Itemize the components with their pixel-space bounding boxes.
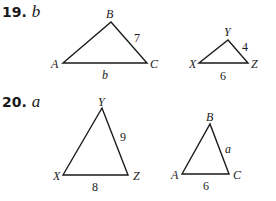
- triangle-abc-20: B A C a 6: [170, 110, 242, 193]
- vertex-label-x: X: [188, 57, 197, 71]
- vertex-label-c: C: [233, 168, 242, 182]
- vertex-label-x: X: [52, 169, 61, 183]
- vertex-label-a: A: [50, 57, 59, 71]
- vertex-label-y: Y: [224, 25, 232, 39]
- side-label-yz: 9: [120, 130, 126, 144]
- vertex-label-y: Y: [98, 95, 106, 109]
- triangle-xyz-19: Y X Z 4 6: [188, 25, 258, 83]
- side-label-xz: 8: [92, 180, 98, 194]
- vertex-label-z: Z: [251, 57, 258, 71]
- side-label-bc: a: [225, 142, 231, 156]
- side-label-xz: 6: [220, 69, 226, 83]
- triangle-xyz-20: Y X Z 9 8: [52, 95, 140, 194]
- triangle-shape: [182, 124, 229, 174]
- side-label-yz: 4: [242, 40, 248, 54]
- vertex-label-b: B: [106, 7, 114, 21]
- vertex-label-c: C: [150, 57, 159, 71]
- side-label-ac: b: [102, 68, 108, 82]
- vertex-label-z: Z: [133, 169, 140, 183]
- triangle-abc-19: B A C 7 b: [50, 7, 159, 82]
- triangle-shape: [63, 108, 128, 175]
- vertex-label-b: B: [206, 110, 214, 124]
- side-label-ac: 6: [203, 179, 209, 193]
- vertex-label-a: A: [170, 168, 179, 182]
- triangle-shape: [199, 40, 248, 63]
- side-label-bc: 7: [134, 31, 140, 45]
- figures: B A C 7 b Y X Z 4 6 Y X Z 9 8 B A C a 6: [0, 0, 276, 201]
